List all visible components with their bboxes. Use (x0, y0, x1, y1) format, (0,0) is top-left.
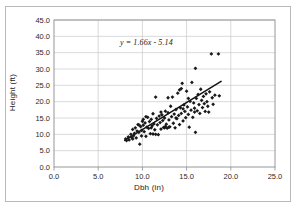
x-tick-label: 0.0 (37, 172, 71, 181)
y-tick-label: 20.0 (24, 97, 50, 106)
x-tick-label: 25.0 (258, 172, 292, 181)
data-point-marker (185, 89, 189, 93)
data-point-marker (154, 95, 158, 99)
data-point-marker (189, 108, 193, 112)
data-point-marker (134, 136, 138, 140)
y-axis-title: Height (ft) (8, 53, 17, 133)
data-point-marker (211, 102, 215, 106)
data-point-marker (206, 104, 210, 108)
data-point-marker (201, 95, 205, 99)
y-tick-label: 5.0 (24, 146, 50, 155)
data-point-marker (156, 123, 160, 127)
x-tick-label: 10.0 (125, 172, 159, 181)
data-point-marker (158, 121, 162, 125)
y-tick-label: 40.0 (24, 32, 50, 41)
x-axis-title: Dbh (in) (0, 183, 298, 192)
data-point-marker (181, 119, 185, 123)
data-point-marker (207, 110, 211, 114)
trendline-equation-label: y = 1.66x - 5.14 (120, 38, 173, 47)
data-point-marker (184, 116, 188, 120)
data-point-marker (210, 96, 214, 100)
data-point-marker (203, 110, 207, 114)
data-point-marker (154, 132, 158, 136)
data-point-marker (194, 130, 198, 134)
y-tick-label: 15.0 (24, 114, 50, 123)
data-point-marker (178, 123, 182, 127)
data-point-marker (169, 104, 173, 108)
data-point-marker (197, 103, 201, 107)
data-point-marker (191, 115, 195, 119)
data-point-marker (171, 121, 175, 125)
data-point-marker (138, 142, 142, 146)
data-point-marker (208, 90, 212, 94)
data-point-series (124, 52, 222, 146)
data-point-marker (202, 102, 206, 106)
data-point-marker (176, 91, 180, 95)
data-point-marker (198, 112, 202, 116)
data-point-marker (186, 113, 190, 117)
y-tick-label: 10.0 (24, 130, 50, 139)
data-point-marker (204, 92, 208, 96)
data-point-marker (201, 106, 205, 110)
y-tick-label: 45.0 (24, 16, 50, 25)
data-point-marker (177, 113, 181, 117)
data-point-marker (199, 87, 203, 91)
data-point-marker (144, 134, 148, 138)
x-tick-label: 20.0 (214, 172, 248, 181)
data-point-marker (193, 106, 197, 110)
y-tick-label: 0.0 (24, 163, 50, 172)
y-tick-label: 30.0 (24, 65, 50, 74)
data-point-marker (205, 100, 209, 104)
data-point-marker (190, 80, 194, 84)
data-point-marker (171, 95, 175, 99)
axis-tick-marks (54, 167, 275, 171)
data-point-marker (213, 93, 217, 97)
data-point-marker (151, 112, 155, 116)
data-point-marker (167, 118, 171, 122)
y-tick-label: 25.0 (24, 81, 50, 90)
x-tick-label: 5.0 (81, 172, 115, 181)
data-point-marker (173, 126, 177, 130)
data-point-marker (217, 94, 221, 98)
data-point-marker (179, 112, 183, 116)
x-tick-label: 15.0 (170, 172, 204, 181)
data-point-marker (186, 105, 190, 109)
data-point-marker (180, 81, 184, 85)
data-point-marker (187, 125, 191, 129)
y-tick-label: 35.0 (24, 48, 50, 57)
data-point-marker (166, 96, 170, 100)
data-point-marker (172, 112, 176, 116)
data-point-marker (194, 66, 198, 70)
data-point-marker (153, 128, 157, 132)
